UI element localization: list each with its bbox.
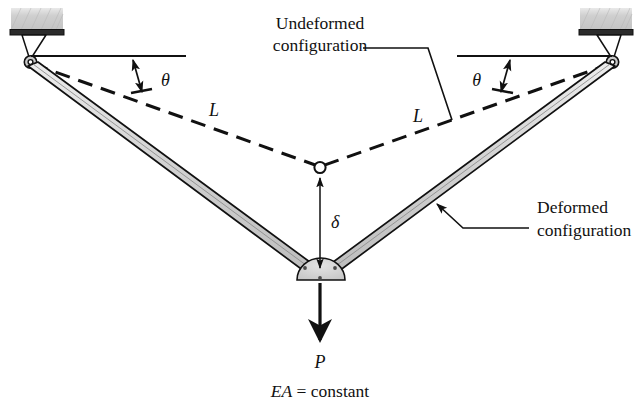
undeformed-callout: Undeformed configuration [273,13,452,120]
truss-figure: δ P θ θ L L Undeformed configuration Def [0,0,643,411]
deformed-label-line2: configuration [537,220,632,240]
undeformed-apex-pin [314,162,325,173]
material-note-rest: = constant [292,381,369,401]
deformed-callout: Deformed configuration [437,197,632,240]
material-note: EA = constant [270,381,369,401]
angle-right-dimension-arrow [501,60,510,92]
truss-diagram-canvas: δ P θ θ L L Undeformed configuration Def [0,0,643,411]
length-left-label: L [208,100,219,120]
left-support [10,8,64,68]
left-support-hatch-block [11,8,63,30]
deformed-member-left [28,62,318,274]
deformed-label-line1: Deformed [537,197,608,217]
load-label: P [314,352,326,372]
right-support-hatch-block [580,8,632,30]
material-note-symbol: EA [270,381,293,401]
undeformed-label-line1: Undeformed [276,13,365,33]
undeformed-member-left [33,64,318,166]
angle-left-label: θ [161,70,170,90]
left-support-plate [10,30,64,36]
angle-right-group: θ [472,60,513,93]
right-support [579,8,633,68]
angle-left-group: θ [131,60,170,93]
deformed-member-right [325,62,615,274]
angle-left-dimension-arrow [133,60,142,92]
undeformed-label-line2: configuration [273,35,368,55]
undeformed-leader-line [363,48,452,120]
deformed-leader-line [437,204,529,228]
deflection-label: δ [331,212,340,232]
angle-right-label: θ [472,70,481,90]
undeformed-member-right [322,64,610,166]
length-right-label: L [412,106,423,126]
right-support-plate [579,30,633,36]
